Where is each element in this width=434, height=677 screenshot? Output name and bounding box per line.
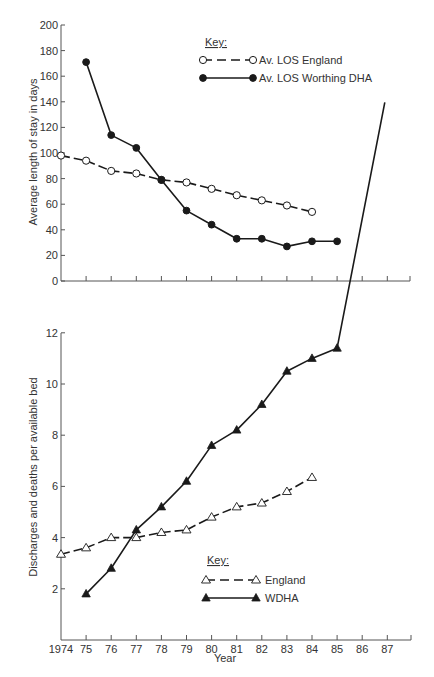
legend-label: Av. LOS Worthing DHA — [259, 72, 373, 84]
y-tick-label: 120 — [40, 121, 58, 133]
data-point — [333, 344, 341, 352]
y-tick-label: 10 — [46, 378, 58, 390]
data-point — [207, 441, 215, 449]
y-tick-label: 20 — [46, 249, 58, 261]
los-legend-title: Key: — [205, 36, 227, 48]
series-wdha — [82, 102, 385, 597]
x-tick-label: 84 — [306, 643, 318, 655]
discharges-legend-title: Key: — [207, 554, 229, 566]
x-tick-label: 78 — [155, 643, 167, 655]
discharges-series — [57, 102, 385, 597]
discharges-chart: 24681012197475767778798081828384858687 D… — [27, 102, 411, 664]
x-tick-label: 86 — [356, 643, 368, 655]
data-point — [183, 179, 190, 186]
data-point — [284, 243, 291, 250]
legend-item: England — [202, 574, 306, 586]
y-tick-label: 12 — [46, 327, 58, 339]
series-england — [57, 473, 317, 557]
x-tick-label: 82 — [256, 643, 268, 655]
legend-item: Av. LOS Worthing DHA — [200, 72, 373, 84]
data-point — [108, 167, 115, 174]
y-tick-label: 160 — [40, 70, 58, 82]
y-tick-label: 4 — [52, 532, 58, 544]
data-point — [208, 221, 215, 228]
y-tick-label: 60 — [46, 198, 58, 210]
y-tick-label: 8 — [52, 429, 58, 441]
data-point — [308, 473, 317, 481]
data-point — [334, 238, 341, 245]
y-tick-label: 140 — [40, 96, 58, 108]
data-point — [183, 207, 190, 214]
y-tick-label: 2 — [52, 583, 58, 595]
series-line — [61, 477, 312, 554]
x-tick-label: 76 — [105, 643, 117, 655]
x-tick-label: 79 — [180, 643, 192, 655]
data-point — [233, 192, 240, 199]
series-av-los-england — [57, 152, 315, 216]
legend-item: Av. LOS England — [199, 54, 342, 66]
x-tick-label: 85 — [331, 643, 343, 655]
y-tick-label: 40 — [46, 224, 58, 236]
x-tick-label: 1974 — [49, 643, 73, 655]
y-tick-label: 0 — [52, 275, 58, 287]
data-point — [57, 152, 64, 159]
data-point — [83, 59, 90, 66]
y-tick-label: 200 — [40, 19, 58, 31]
x-tick-label: 83 — [281, 643, 293, 655]
legend-label: WDHA — [265, 592, 299, 604]
series-av-los-worthing-dha — [83, 59, 341, 250]
y-tick-label: 100 — [40, 147, 58, 159]
legend-marker — [250, 75, 257, 82]
data-point — [108, 132, 115, 139]
legend-marker — [200, 75, 207, 82]
y-tick-label: 6 — [52, 480, 58, 492]
discharges-axes: 24681012197475767778798081828384858687 — [46, 327, 411, 655]
series-line — [86, 62, 337, 246]
figure: 020406080100120140160180200 Average leng… — [0, 0, 434, 677]
los-y-axis-title: Average length of stay in days — [27, 78, 39, 226]
data-point — [233, 235, 240, 242]
legend-label: England — [265, 574, 305, 586]
data-point — [283, 202, 290, 209]
data-point — [309, 238, 316, 245]
legend-marker — [199, 56, 206, 63]
data-point — [158, 176, 165, 183]
data-point — [258, 197, 265, 204]
x-axis-title: Year — [214, 652, 237, 664]
data-point — [83, 157, 90, 164]
data-point — [133, 170, 140, 177]
data-point — [282, 487, 291, 495]
y-tick-label: 80 — [46, 173, 58, 185]
legend-marker — [249, 56, 256, 63]
discharges-y-axis-title: Discharges and deaths per available bed — [27, 377, 39, 576]
discharges-legend: Key: EnglandWDHA — [202, 554, 306, 604]
x-tick-label: 75 — [80, 643, 92, 655]
los-legend: Key: Av. LOS EnglandAv. LOS Worthing DHA — [199, 36, 372, 84]
x-tick-label: 77 — [130, 643, 142, 655]
legend-label: Av. LOS England — [259, 54, 342, 66]
legend-item: WDHA — [202, 592, 299, 604]
y-tick-label: 180 — [40, 45, 58, 57]
x-tick-label: 87 — [381, 643, 393, 655]
data-point — [133, 144, 140, 151]
data-point — [258, 235, 265, 242]
data-point — [208, 185, 215, 192]
los-chart: 020406080100120140160180200 Average leng… — [27, 19, 410, 287]
data-point — [308, 208, 315, 215]
los-series — [57, 59, 340, 250]
